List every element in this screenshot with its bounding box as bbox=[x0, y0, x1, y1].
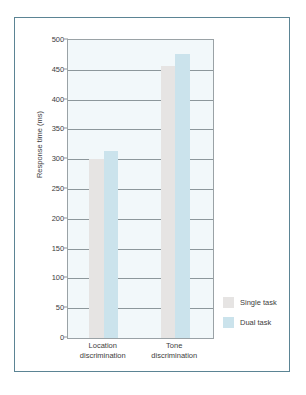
y-axis-tick-labels: 500450400350300250200150100500 bbox=[29, 39, 64, 339]
figure-frame: Response time (ms) 500450400350300250200… bbox=[14, 17, 290, 372]
category-label-line: Location bbox=[80, 341, 126, 351]
bar-single-task-tone-discrimination bbox=[161, 66, 176, 338]
y-axis-tick-label: 400 bbox=[52, 94, 64, 103]
y-axis-tick-label: 500 bbox=[52, 35, 64, 44]
y-axis-tick-label: 150 bbox=[52, 243, 64, 252]
y-axis-tick-label: 450 bbox=[52, 64, 64, 73]
legend-swatch-dual-task bbox=[223, 317, 234, 328]
legend-swatch-single-task bbox=[223, 297, 234, 308]
category-label-line: discrimination bbox=[80, 351, 126, 361]
gridline bbox=[68, 129, 213, 130]
gridline bbox=[68, 70, 213, 71]
y-axis-tick-label: 250 bbox=[52, 184, 64, 193]
y-axis-tick-label: 50 bbox=[56, 303, 64, 312]
y-axis-tick-label: 350 bbox=[52, 124, 64, 133]
legend-item-dual-task[interactable]: Dual task bbox=[223, 314, 293, 330]
chart-legend: Single taskDual task bbox=[223, 294, 293, 334]
gridline bbox=[68, 100, 213, 101]
x-axis-category-label: Locationdiscrimination bbox=[80, 341, 126, 361]
bar-dual-task-tone-discrimination bbox=[175, 54, 190, 338]
x-axis-category-label: Tonediscrimination bbox=[151, 341, 197, 361]
plot-area bbox=[67, 39, 214, 339]
bar-dual-task-location-discrimination bbox=[104, 151, 119, 338]
category-label-line: discrimination bbox=[151, 351, 197, 361]
y-axis-tick-label: 200 bbox=[52, 213, 64, 222]
legend-item-label: Dual task bbox=[240, 318, 271, 327]
category-label-line: Tone bbox=[151, 341, 197, 351]
legend-item-single-task[interactable]: Single task bbox=[223, 294, 293, 310]
y-axis-tick-label: 100 bbox=[52, 273, 64, 282]
legend-item-label: Single task bbox=[240, 298, 277, 307]
bar-single-task-location-discrimination bbox=[89, 159, 104, 338]
y-axis-tick-label: 300 bbox=[52, 154, 64, 163]
x-axis-category-labels: LocationdiscriminationTonediscrimination bbox=[67, 341, 214, 371]
